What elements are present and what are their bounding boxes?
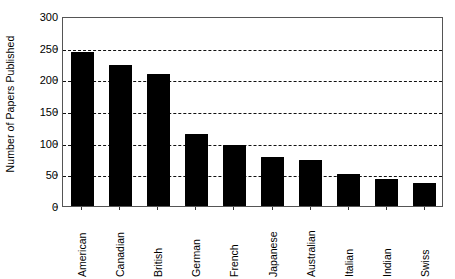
bars-group — [63, 18, 442, 206]
bar-french — [223, 145, 246, 206]
x-tick-mark — [157, 207, 158, 210]
bar-canadian — [109, 65, 132, 206]
bar-british — [147, 74, 170, 206]
y-tick-mark — [54, 175, 58, 176]
plot-area — [62, 17, 443, 207]
y-tick-label: 150 — [24, 107, 58, 118]
y-tick-label: 200 — [24, 75, 58, 86]
bar-indian — [375, 179, 398, 206]
y-tick-mark — [54, 207, 58, 208]
bar-american — [71, 52, 94, 206]
y-tick-mark — [54, 48, 58, 49]
bar-japanese — [261, 157, 284, 206]
bar-swiss — [413, 183, 436, 206]
bar-german — [185, 134, 208, 206]
x-label-text: Swiss — [420, 250, 431, 277]
x-tick-mark — [272, 207, 273, 210]
y-tick-label: 300 — [24, 12, 58, 23]
y-tick-mark — [54, 143, 58, 144]
x-tick-mark — [81, 207, 82, 210]
x-label-swiss: Swiss — [390, 211, 455, 279]
y-tick-label: 100 — [24, 138, 58, 149]
y-axis-title-text: Number of Papers Published — [4, 35, 16, 172]
y-tick-label: 250 — [24, 43, 58, 54]
bar-chart-figure: Number of Papers Published 0501001502002… — [0, 0, 455, 279]
y-tick-mark — [54, 80, 58, 81]
y-tick-mark — [54, 112, 58, 113]
x-tick-mark — [195, 207, 196, 210]
x-axis-category-labels: AmericanCanadianBritishGermanFrenchJapan… — [62, 211, 443, 279]
y-tick-label: 50 — [24, 170, 58, 181]
x-tick-mark — [348, 207, 349, 210]
bar-italian — [337, 174, 360, 206]
x-tick-mark — [386, 207, 387, 210]
x-tick-mark — [424, 207, 425, 210]
y-axis-title: Number of Papers Published — [0, 0, 20, 207]
x-tick-mark — [119, 207, 120, 210]
bar-australian — [299, 160, 322, 206]
x-tick-mark — [310, 207, 311, 210]
y-axis-tick-labels: 050100150200250300 — [24, 0, 58, 220]
x-tick-mark — [233, 207, 234, 210]
